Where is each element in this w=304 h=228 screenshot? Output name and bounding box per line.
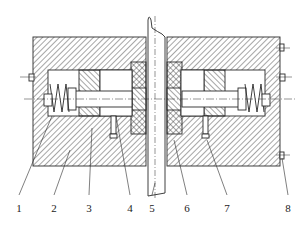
cross-section-drawing xyxy=(0,0,304,228)
shaft-5 xyxy=(148,17,165,196)
label-1: 1 xyxy=(16,203,22,214)
label-8: 8 xyxy=(285,203,291,214)
label-3: 3 xyxy=(86,203,92,214)
label-2: 2 xyxy=(51,203,57,214)
label-5: 5 xyxy=(149,203,155,214)
label-6: 6 xyxy=(184,203,190,214)
left-pad-4 xyxy=(131,62,146,134)
right-pad-6 xyxy=(167,62,182,134)
label-7: 7 xyxy=(224,203,230,214)
label-4: 4 xyxy=(127,203,133,214)
